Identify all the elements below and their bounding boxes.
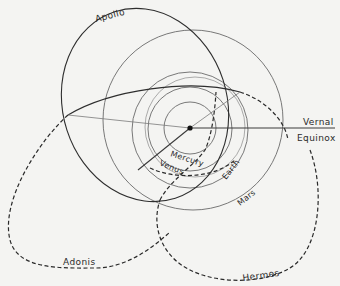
sun-marker	[187, 125, 192, 130]
adonis-label: Adonis	[63, 257, 96, 267]
mars-label: Mars	[236, 188, 258, 208]
mars-orbit	[103, 30, 283, 210]
apollo-label: Apollo	[94, 7, 126, 24]
node-line	[68, 115, 190, 128]
hermes-label: Hermes	[242, 268, 280, 283]
equinox-label: Equinox	[297, 133, 336, 143]
earth-label: Earth	[220, 158, 241, 182]
orbit-diagram: Apollo Mercury Venus Earth Mars Adonis H…	[0, 0, 340, 286]
vernal-label: Vernal	[303, 117, 334, 127]
apollo-orbit	[37, 0, 254, 224]
adonis-orbit	[8, 115, 170, 268]
